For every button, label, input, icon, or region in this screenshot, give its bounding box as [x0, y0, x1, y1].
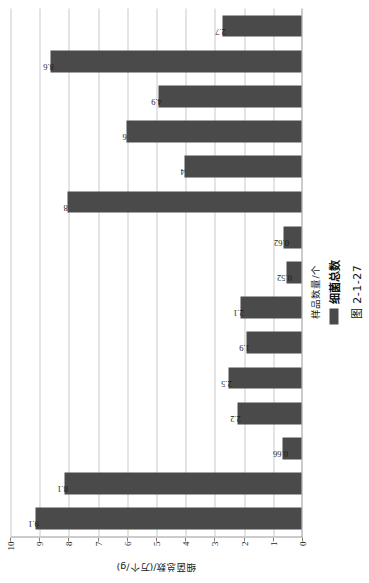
bar-value-label: 2.5 [221, 378, 232, 388]
legend: 细菌总数 [325, 8, 341, 575]
y-tick-label: 0 [297, 541, 307, 546]
bar-value-label: 8.1 [57, 483, 68, 493]
bar-value-label: 6 [122, 131, 126, 141]
bar-slot: 1.9 [10, 325, 301, 360]
y-tick-label: 6 [122, 541, 132, 546]
y-tick-mark [272, 537, 273, 541]
y-tick-mark [68, 537, 69, 541]
x-axis-title: 样品数量/个 [307, 8, 321, 575]
y-tick-mark [97, 537, 98, 541]
y-axis-tick-labels: 012345678910 [10, 537, 302, 559]
bar-slot: 0.66 [10, 430, 301, 465]
bar[interactable]: 0.52 [286, 261, 301, 283]
legend-label: 细菌总数 [325, 259, 341, 303]
bar-value-label: 1.9 [238, 342, 249, 352]
y-tick-mark [185, 537, 186, 541]
y-tick-label: 4 [180, 541, 190, 546]
bar[interactable]: 4.9 [158, 85, 301, 107]
bar-slot: 6 [10, 114, 301, 149]
bar-slot: 8.1 [10, 466, 301, 501]
bar-value-label: 8 [63, 202, 67, 212]
plot-area-container: 细菌总数/(万个/g) 012345678910 9.18.10.662.22.… [10, 8, 302, 575]
y-tick-mark [302, 537, 303, 541]
bar-slot: 2.2 [10, 395, 301, 430]
y-tick-mark [126, 537, 127, 541]
bar-value-label: 9.1 [28, 518, 39, 528]
y-tick-mark [39, 537, 40, 541]
bar-slot: 4 [10, 149, 301, 184]
y-tick-mark [214, 537, 215, 541]
bar[interactable]: 6 [126, 120, 301, 142]
bar-value-label: 4.9 [151, 96, 162, 106]
rotated-figure-wrapper: 细菌总数/(万个/g) 012345678910 9.18.10.662.22.… [0, 0, 369, 583]
plot-area: 9.18.10.662.22.51.92.10.520.628464.98.62… [10, 8, 302, 537]
bar[interactable]: 0.62 [283, 226, 301, 248]
bar[interactable]: 4 [184, 155, 301, 177]
bar-value-label: 2.7 [215, 26, 226, 36]
bar[interactable]: 2.5 [228, 367, 301, 389]
bar-slot: 0.52 [10, 254, 301, 289]
legend-swatch-icon [329, 308, 338, 324]
bar[interactable]: 0.66 [282, 437, 301, 459]
bar-value-label: 2.2 [229, 413, 240, 423]
bar-value-label: 2.1 [232, 307, 243, 317]
y-tick-mark [156, 537, 157, 541]
bar-slot: 2.1 [10, 290, 301, 325]
y-tick-label: 2 [239, 541, 249, 546]
bar-slot: 0.62 [10, 219, 301, 254]
bar-value-label: 0.52 [276, 272, 291, 282]
bar-slot: 8.6 [10, 43, 301, 78]
bar-value-label: 4 [180, 166, 184, 176]
bar[interactable]: 8.6 [50, 50, 301, 72]
y-tick-label: 9 [34, 541, 44, 546]
y-tick-mark [10, 537, 11, 541]
y-tick-label: 3 [209, 541, 219, 546]
y-tick-label: 5 [151, 541, 161, 546]
bar[interactable]: 2.2 [237, 402, 301, 424]
y-tick-label: 10 [5, 541, 15, 550]
bar-slot: 2.5 [10, 360, 301, 395]
figure-caption: 图 2-1-27 [347, 8, 363, 575]
bar-chart-figure: 细菌总数/(万个/g) 012345678910 9.18.10.662.22.… [0, 0, 369, 583]
bar-value-label: 0.62 [273, 237, 288, 247]
bar-slot: 2.7 [10, 8, 301, 43]
y-axis-title: 细菌总数/(万个/g) [116, 560, 196, 574]
y-axis-title-column: 细菌总数/(万个/g) [10, 559, 302, 575]
bar[interactable]: 2.7 [222, 15, 301, 37]
bar[interactable]: 9.1 [35, 508, 301, 530]
y-tick-label: 1 [268, 541, 278, 546]
bar-value-label: 0.66 [272, 448, 287, 458]
bar-series: 9.18.10.662.22.51.92.10.520.628464.98.62… [10, 8, 301, 536]
bar[interactable]: 8.1 [64, 472, 301, 494]
bar-slot: 4.9 [10, 78, 301, 113]
bar[interactable]: 2.1 [240, 296, 301, 318]
bar-value-label: 8.6 [43, 61, 54, 71]
bar[interactable]: 1.9 [246, 331, 301, 353]
y-tick-label: 8 [63, 541, 73, 546]
bar-slot: 9.1 [10, 501, 301, 536]
y-tick-label: 7 [93, 541, 103, 546]
y-tick-mark [243, 537, 244, 541]
bar-slot: 8 [10, 184, 301, 219]
bar[interactable]: 8 [67, 191, 301, 213]
